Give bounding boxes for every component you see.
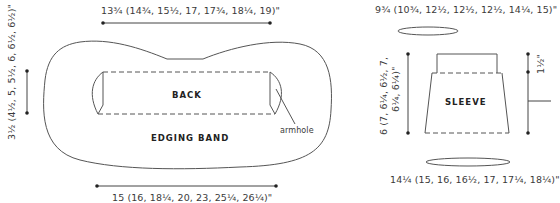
back-bottom-width-label: 15 (16, 18¼, 20, 23, 25¼, 26¼)" — [112, 192, 272, 203]
sleeve-bottom-circumference-arrow — [426, 158, 510, 166]
sleeve-cuff-label: 1½" — [535, 54, 546, 74]
edging-band-outline — [44, 41, 332, 169]
back-top-dimension — [101, 21, 272, 25]
back-top-width-label: 13¾ (14¾, 15½, 17, 17¾, 18¼, 19)" — [101, 5, 280, 16]
sleeve-top-circumference-arrow — [398, 27, 458, 35]
sleeve-length-label-line1: 6 (7, 6¼, 6½, 7, — [378, 57, 389, 135]
sleeve-bottom-circumference-label: 14¼ (15, 16, 16½, 17, 17¼, 18¼)" — [390, 174, 560, 185]
back-bottom-dimension — [95, 184, 278, 188]
back-side-dimension — [25, 69, 29, 115]
sleeve-length-label-line2: 6¼, 6¼)" — [390, 67, 401, 112]
back-side-height-label: 3½ (4½, 5, 5½, 6, 6½, 6½)" — [6, 4, 17, 140]
edging-band-label: EDGING BAND — [151, 133, 229, 143]
sleeve-top-circumference-label: 9¾ (10¾, 12½, 12½, 12½, 14¼, 15)" — [375, 4, 557, 15]
sleeve-outline — [425, 54, 509, 133]
sleeve-label: SLEEVE — [445, 97, 487, 107]
armhole-label: armhole — [280, 126, 314, 135]
sleeve-length-dimension — [406, 52, 410, 135]
back-label: BACK — [172, 90, 202, 100]
